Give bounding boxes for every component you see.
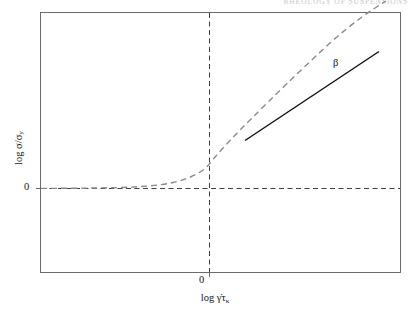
plot-canvas <box>0 0 412 317</box>
x-tick-label-zero: 0 <box>199 274 204 285</box>
y-tick-label-zero: 0 <box>24 181 29 192</box>
slope-tangent-line <box>245 52 379 141</box>
flow-curve-dashed <box>41 1 386 188</box>
slope-annotation-beta: β <box>333 57 338 68</box>
plot-frame <box>41 13 401 273</box>
x-axis-label: log γ̇τκ <box>0 292 412 305</box>
y-axis-label-subscript: y <box>17 131 25 135</box>
figure-container: RHEOLOGY OF SUSPENSIONS log σ/σy log γ̇τ… <box>0 0 412 317</box>
y-axis-label-text: log σ/σ <box>13 135 24 165</box>
x-axis-label-subscript: κ <box>226 297 230 305</box>
y-axis-label: log σ/σy <box>13 131 26 165</box>
x-axis-label-text: log γ̇τ <box>201 292 226 303</box>
